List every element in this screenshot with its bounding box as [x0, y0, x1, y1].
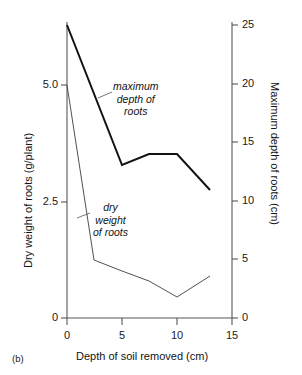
left-axis-ticks — [61, 85, 67, 318]
x-axis-tick-label-0: 0 — [55, 330, 79, 341]
x-axis-tick-label-15: 15 — [220, 330, 244, 341]
right-axis-tick-label-15: 15 — [242, 136, 268, 147]
annotation-maximum-depth-line-1: maximum — [113, 80, 159, 93]
leader-line-maximum-depth — [98, 92, 112, 98]
right-axis-tick-label-20: 20 — [242, 78, 268, 89]
right-axis-tick-label-10: 10 — [242, 195, 268, 206]
annotation-dry-weight-line-1: dry — [93, 201, 128, 214]
left-axis-tick-label-0: 0 — [28, 312, 58, 323]
panel-label: (b) — [12, 353, 24, 364]
annotation-dry-weight-line-2: weight — [93, 214, 128, 227]
leader-line-dry-weight — [77, 213, 90, 218]
annotation-maximum-depth-of-roots: maximum depth of roots — [113, 80, 159, 118]
x-axis-title: Depth of soil removed (cm) — [76, 350, 208, 362]
x-axis-tick-label-10: 10 — [165, 330, 189, 341]
right-axis-ticks — [232, 25, 238, 318]
x-axis-tick-label-5: 5 — [110, 330, 134, 341]
right-axis-tick-label-5: 5 — [242, 253, 268, 264]
left-axis-tick-label-5: 5.0 — [28, 79, 58, 90]
right-axis-tick-label-25: 25 — [242, 19, 268, 30]
x-axis-ticks — [67, 318, 232, 325]
figure-panel: 5.0 2.5 0 25 20 15 10 5 0 0 5 10 15 Dry … — [0, 0, 302, 375]
right-axis-title: Maximum depth of roots (cm) — [269, 82, 281, 225]
left-axis-title: Dry weight of roots (g/plant) — [22, 133, 34, 268]
annotation-maximum-depth-line-3: roots — [113, 105, 159, 118]
annotation-maximum-depth-line-2: depth of — [113, 93, 159, 106]
annotation-dry-weight-line-3: of roots — [93, 226, 128, 239]
right-axis-tick-label-0: 0 — [242, 312, 268, 323]
annotation-dry-weight-of-roots: dry weight of roots — [93, 201, 128, 239]
